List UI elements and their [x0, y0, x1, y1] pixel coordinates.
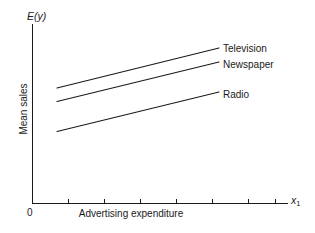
x-axis-symbol-subscript: 1: [296, 199, 300, 208]
series-line-radio: [57, 92, 219, 132]
series-label-radio: Radio: [223, 90, 249, 100]
plot-canvas: [0, 0, 315, 233]
series-lines: [57, 48, 219, 132]
y-axis-symbol: E(y): [27, 11, 46, 22]
x-axis-symbol: x1: [291, 195, 300, 206]
y-axis-title: Mean sales: [19, 64, 29, 154]
series-label-television: Television: [223, 44, 267, 54]
series-label-newspaper: Newspaper: [223, 60, 274, 70]
x-axis-title: Advertising expenditure: [0, 209, 262, 219]
x-axis-ticks: [69, 199, 276, 204]
chart-figure: E(y) x1 0 Advertising expenditure Mean s…: [0, 0, 315, 233]
